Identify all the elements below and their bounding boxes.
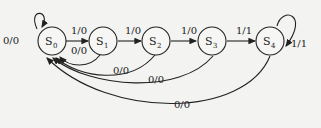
svg-text:0: 0 [53,42,57,50]
label-s0-s1: 1/0 [71,25,87,36]
state-s4: S 4 [256,27,284,55]
label-s2-s0: 0/0 [113,65,129,76]
state-s2: S 2 [142,27,170,55]
svg-text:S: S [205,35,213,48]
label-s4-s4: 1/1 [291,38,307,49]
svg-text:2: 2 [157,42,161,50]
label-s1-s2: 1/0 [125,25,141,36]
svg-text:4: 4 [271,42,276,50]
label-s3-s4: 1/1 [236,25,252,36]
state-s1: S 1 [89,27,117,55]
label-s2-s3: 1/0 [181,25,197,36]
svg-text:S: S [45,35,53,48]
label-s0-s0: 0/0 [3,35,19,46]
state-s3: S 3 [198,27,226,55]
label-s1-s0: 0/0 [71,45,87,56]
svg-text:1: 1 [104,42,108,50]
state-s0: S 0 [38,27,66,55]
svg-text:S: S [96,35,104,48]
edge-s1-s0 [60,55,100,65]
svg-text:S: S [263,35,271,48]
edge-s0-s0 [35,13,45,29]
svg-text:S: S [149,35,157,48]
svg-text:3: 3 [213,42,217,50]
label-s4-s0: 0/0 [174,99,190,110]
edge-s2-s0 [56,55,155,75]
state-diagram: 0/0 1/1 1/0 1/0 1/0 1/1 0/0 0/0 0/0 0/0 … [0,0,321,128]
label-s3-s0: 0/0 [148,74,164,85]
